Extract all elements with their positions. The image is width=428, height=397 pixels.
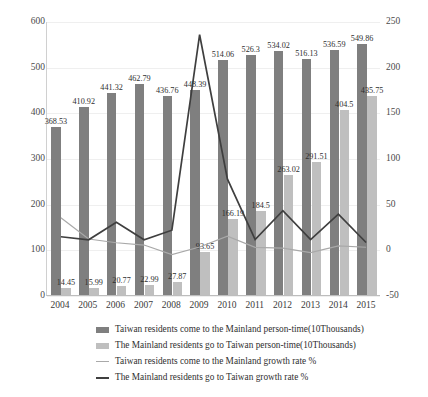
legend-swatch-bar-dark [96, 327, 109, 333]
y-axis-left-tick-label: 0 [11, 291, 45, 300]
legend-label: Taiwan residents come to the Mainland pe… [115, 324, 364, 335]
y-axis-left-tick-label: 100 [11, 245, 45, 254]
gridline [47, 296, 380, 297]
y-axis-right-tick-label: 50 [386, 200, 420, 209]
lines-layer [47, 22, 380, 295]
legend-swatch-line-thin [96, 361, 109, 362]
x-axis-tick-label: 2011 [241, 300, 269, 310]
y-axis-right-tick-label: 0 [386, 245, 420, 254]
x-axis-tick-label: 2005 [74, 300, 102, 310]
x-axis-tick-label: 2014 [324, 300, 352, 310]
x-axis-tick-label: 2013 [297, 300, 325, 310]
legend-label: Taiwan residents come to the Mainland gr… [115, 356, 316, 367]
legend-item[interactable]: The Mainland residents go to Taiwan grow… [96, 370, 426, 385]
legend-swatch-line-thick [96, 377, 109, 379]
legend-item[interactable]: Taiwan residents come to the Mainland gr… [96, 354, 426, 369]
line-series [61, 35, 366, 243]
chart-container: 0100200300400500600 -50050100150200250 3… [0, 0, 428, 397]
x-axis-tick-label: 2015 [352, 300, 380, 310]
legend-swatch-bar-light [96, 343, 109, 349]
y-axis-right-tick-label: 200 [386, 63, 420, 72]
x-axis-tick-label: 2010 [213, 300, 241, 310]
y-axis-right-tick-label: 100 [386, 154, 420, 163]
legend-label: The Mainland residents go to Taiwan grow… [115, 372, 308, 383]
x-axis-tick-label: 2008 [157, 300, 185, 310]
legend-item[interactable]: Taiwan residents come to the Mainland pe… [96, 322, 426, 337]
x-axis-tick-label: 2006 [102, 300, 130, 310]
y-axis-right-tick-label: -50 [386, 291, 420, 300]
x-axis-tick-label: 2007 [130, 300, 158, 310]
y-axis-left-tick-label: 200 [11, 200, 45, 209]
x-axis-tick-label: 2004 [46, 300, 74, 310]
x-axis-tick-label: 2012 [269, 300, 297, 310]
plot-area: 368.5314.45410.9215.99441.3220.77462.792… [46, 22, 380, 296]
legend-item[interactable]: The Mainland residents go to Taiwan pers… [96, 338, 426, 353]
y-axis-left-tick-label: 600 [11, 17, 45, 26]
y-axis-right-tick-label: 150 [386, 108, 420, 117]
line-series [61, 218, 366, 255]
x-axis-tick-label: 2009 [185, 300, 213, 310]
legend-label: The Mainland residents go to Taiwan pers… [115, 340, 356, 351]
y-axis-left-tick-label: 500 [11, 63, 45, 72]
chart-legend: Taiwan residents come to the Mainland pe… [96, 322, 426, 386]
y-axis-left-tick-label: 300 [11, 154, 45, 163]
y-axis-right-tick-label: 250 [386, 17, 420, 26]
